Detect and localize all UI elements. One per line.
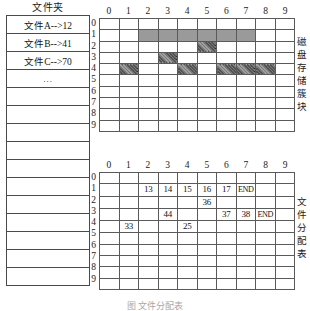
- disk-label-char: 盘: [296, 49, 308, 62]
- folder-entry-label: ...: [7, 70, 90, 88]
- fat-entry-empty: [119, 173, 139, 184]
- disk-storage-cluster-label: 磁盘存储簇块: [296, 36, 308, 114]
- disk-cluster-cell-allocated-hatch: [217, 64, 237, 75]
- fat-entry-empty: [275, 244, 295, 255]
- disk-row-headers: 0123456789: [88, 18, 99, 131]
- fat-entry-empty: [158, 267, 178, 278]
- fat-label-char: 表: [296, 248, 308, 261]
- fat-entry-empty: [256, 184, 276, 196]
- fat-row-header: 0: [88, 172, 99, 183]
- disk-cluster-cell-free: [178, 75, 198, 86]
- fat-entry-empty: [256, 233, 276, 244]
- fat-entry-empty: [275, 208, 295, 220]
- fat-entry-empty: [100, 278, 120, 289]
- fat-grid-block: 0123456789 0123456789 1314151617END36443…: [99, 158, 295, 290]
- disk-cluster-cell-free: [217, 86, 237, 97]
- fat-entry-empty: [275, 278, 295, 289]
- figure-caption: 图 文件分配表: [0, 299, 310, 311]
- disk-col-header: 5: [197, 4, 217, 18]
- fat-entry-empty: [100, 233, 120, 244]
- disk-cluster-cell-free: [275, 52, 295, 63]
- fat-entry-empty: [139, 221, 159, 233]
- fat-label-char: 件: [296, 209, 308, 222]
- fat-column-headers: 0123456789: [99, 158, 295, 172]
- fat-col-header: 9: [275, 158, 295, 172]
- fat-entry-empty: [217, 278, 237, 289]
- fat-entry-empty: [178, 244, 198, 255]
- disk-grid-row: [100, 19, 295, 30]
- disk-cluster-cell-free: [139, 109, 159, 120]
- fat-entry-empty: [139, 244, 159, 255]
- folder-row: [7, 196, 90, 214]
- fat-row-header: 7: [88, 251, 99, 262]
- disk-cluster-cell-free: [275, 98, 295, 109]
- folder-row: 文件A-->12: [7, 16, 90, 34]
- disk-col-header: 1: [119, 4, 139, 18]
- disk-cluster-cell-free: [197, 120, 217, 131]
- folder-row: 文件B-->41: [7, 34, 90, 52]
- folder-directory-panel: 文件夹 文件A-->12文件B-->41文件C-->70...: [6, 2, 90, 286]
- fat-entry-empty: [178, 278, 198, 289]
- disk-grid-row: [100, 109, 295, 120]
- disk-label-char: 块: [296, 101, 308, 114]
- fat-row-header: 8: [88, 262, 99, 273]
- fat-grid-row: 1314151617END: [100, 184, 295, 196]
- disk-label-char: 磁: [296, 36, 308, 49]
- folder-empty-cell: [7, 160, 90, 178]
- disk-grid-row: [100, 98, 295, 109]
- fat-entry-empty: [217, 267, 237, 278]
- disk-cluster-cell-free: [217, 19, 237, 30]
- disk-cluster-cell-allocated-hatch: [197, 41, 217, 52]
- fat-col-header: 3: [158, 158, 178, 172]
- disk-grid-row: [100, 86, 295, 97]
- fat-entry-empty: [139, 208, 159, 220]
- disk-grid-row: [100, 52, 295, 63]
- fat-entry-empty: [275, 196, 295, 208]
- fat-entry-empty: [158, 173, 178, 184]
- folder-entry-label: 文件C-->70: [7, 52, 90, 70]
- disk-cluster-cell-free: [139, 52, 159, 63]
- folder-empty-cell: [7, 196, 90, 214]
- fat-entry-empty: [100, 256, 120, 267]
- disk-cluster-grid-block: 0123456789 0123456789: [99, 4, 295, 132]
- fat-row-header: 1: [88, 183, 99, 194]
- folder-row: [7, 268, 90, 286]
- fat-entry-empty: [100, 244, 120, 255]
- fat-entry-empty: [217, 221, 237, 233]
- disk-cluster-cell-free: [119, 75, 139, 86]
- disk-grid-row: [100, 64, 295, 75]
- disk-cluster-cell-free: [217, 109, 237, 120]
- disk-cluster-cell-free: [178, 109, 198, 120]
- fat-entry-empty: [197, 221, 217, 233]
- fat-entry-empty: [139, 196, 159, 208]
- fat-entry-empty: [256, 244, 276, 255]
- disk-cluster-cell-free: [275, 30, 295, 41]
- fat-grid-row: 3325: [100, 221, 295, 233]
- fat-row-header: 2: [88, 195, 99, 206]
- fat-row-header: 6: [88, 240, 99, 251]
- disk-cluster-cell-allocated-solid: [158, 30, 178, 41]
- disk-cluster-cell-free: [236, 120, 256, 131]
- fat-entry-empty: [158, 256, 178, 267]
- disk-cluster-cell-allocated-hatch: [158, 52, 178, 63]
- disk-cluster-cell-free: [100, 120, 120, 131]
- disk-cluster-cell-free: [178, 41, 198, 52]
- disk-cluster-cell-free: [197, 109, 217, 120]
- disk-cluster-cell-free: [197, 86, 217, 97]
- fat-entry-value: 17: [217, 184, 237, 196]
- disk-cluster-cell-free: [217, 98, 237, 109]
- fat-entry-empty: [158, 278, 178, 289]
- disk-cluster-cell-free: [119, 86, 139, 97]
- fat-entry-empty: [275, 233, 295, 244]
- fat-entry-empty: [256, 173, 276, 184]
- disk-cluster-cell-free: [119, 98, 139, 109]
- fat-row-header: 4: [88, 217, 99, 228]
- disk-grid-row: [100, 41, 295, 52]
- fat-entry-empty: [100, 221, 120, 233]
- fat-entry-empty: [275, 221, 295, 233]
- fat-entry-empty: [275, 256, 295, 267]
- fat-entry-value: 33: [119, 221, 139, 233]
- fat-label-char: 配: [296, 235, 308, 248]
- disk-cluster-cell-free: [275, 41, 295, 52]
- fat-entry-empty: [217, 233, 237, 244]
